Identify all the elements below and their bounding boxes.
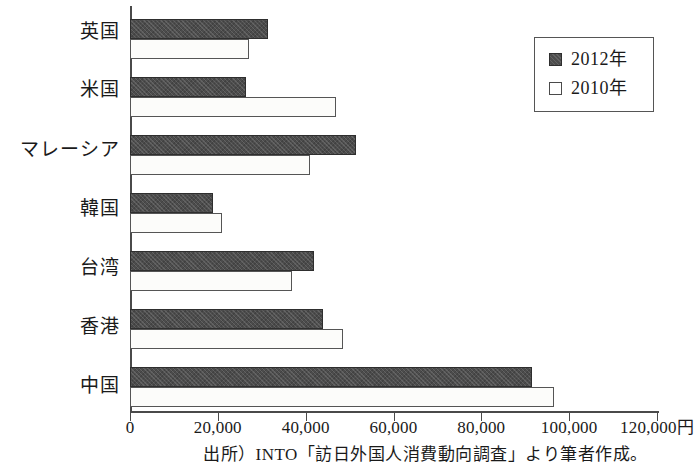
- bar-香港-2010年: [130, 329, 343, 349]
- bar-マレーシア-2010年: [130, 155, 310, 175]
- x-axis-line: [130, 411, 659, 413]
- filled-square-icon: [549, 53, 562, 66]
- x-axis-tick-label-4: 80,000: [457, 418, 505, 437]
- bar-韓国-2010年: [130, 213, 222, 233]
- category-label-0: 英国: [80, 22, 120, 41]
- x-axis-tick-label-5: 100,000: [541, 418, 598, 437]
- category-label-1: 米国: [80, 80, 120, 99]
- bar-中国-2012年: [130, 367, 532, 387]
- bar-香港-2012年: [130, 309, 323, 329]
- category-label-6: 中国: [80, 376, 120, 395]
- category-label-4: 台湾: [80, 258, 120, 277]
- bar-米国-2012年: [130, 77, 246, 97]
- legend-label-2012: 2012年: [571, 50, 628, 68]
- x-axis-tick-label-3: 60,000: [370, 418, 418, 437]
- source-note: 出所）INTO「訪日外国人消費動向調査」より筆者作成。: [203, 445, 648, 465]
- y-axis-top-cap: [130, 6, 131, 13]
- category-axis-labels: 英国 米国 マレーシア 韓国 台湾 香港 中国: [0, 0, 120, 420]
- bar-中国-2010年: [130, 387, 554, 407]
- legend-entry-2012: 2012年: [549, 50, 628, 68]
- legend-label-2010: 2010年: [571, 79, 628, 97]
- legend: 2012年 2010年: [534, 37, 654, 112]
- bar-韓国-2012年: [130, 193, 213, 213]
- legend-entry-2010: 2010年: [549, 79, 628, 97]
- category-label-5: 香港: [80, 317, 120, 336]
- x-axis-tick-label-6: 120,000円: [620, 418, 694, 437]
- bar-マレーシア-2012年: [130, 135, 356, 155]
- x-axis-tick-label-0: 0: [126, 418, 135, 437]
- category-label-2: マレーシア: [20, 140, 120, 159]
- bar-台湾-2010年: [130, 271, 292, 291]
- hollow-square-icon: [549, 82, 562, 95]
- category-label-3: 韓国: [80, 199, 120, 218]
- bar-台湾-2012年: [130, 251, 314, 271]
- x-axis-tick-label-1: 20,000: [194, 418, 242, 437]
- bar-米国-2010年: [130, 97, 336, 117]
- bar-英国-2012年: [130, 19, 268, 39]
- bar-英国-2010年: [130, 39, 249, 59]
- x-axis-tick-label-2: 40,000: [282, 418, 330, 437]
